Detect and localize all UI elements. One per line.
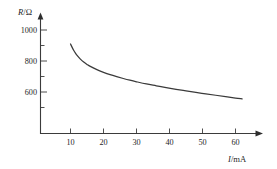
- x-axis-title: I/mA: [227, 154, 247, 164]
- x-tick-label-50: 50: [198, 138, 206, 147]
- x-tick-label-10: 10: [66, 138, 74, 147]
- y-tick-label-1000: 1000: [21, 26, 37, 35]
- x-tick-label-60: 60: [231, 138, 239, 147]
- x-tick-label-40: 40: [165, 138, 173, 147]
- chart-canvas: 1000 800 600 10 20 30 40 50 60 R/Ω I/mA: [0, 0, 277, 169]
- x-axis-title-unit: /mA: [231, 154, 247, 164]
- x-tick-label-20: 20: [99, 138, 107, 147]
- y-axis-title: R/Ω: [17, 7, 32, 17]
- y-axis-arrow-icon: [38, 13, 44, 20]
- y-tick-label-800: 800: [25, 57, 37, 66]
- x-axis-arrow-icon: [256, 131, 264, 137]
- x-tick-label-30: 30: [132, 138, 140, 147]
- chart-figure: 1000 800 600 10 20 30 40 50 60 R/Ω I/mA: [0, 0, 277, 169]
- y-tick-label-600: 600: [25, 88, 37, 97]
- resistance-current-curve: [71, 44, 243, 99]
- y-axis-title-unit: /Ω: [23, 7, 32, 17]
